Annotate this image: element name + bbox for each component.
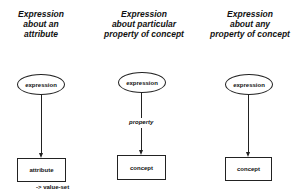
expression-node-2: expression bbox=[118, 72, 166, 93]
node-label: concept bbox=[130, 165, 153, 171]
edge-2a bbox=[141, 93, 142, 118]
title-line: Expression bbox=[11, 9, 71, 19]
edge-1 bbox=[41, 95, 42, 153]
node-label: concept bbox=[237, 166, 260, 172]
node-label: expression bbox=[233, 82, 265, 88]
title-any-property: Expression about any property of concept bbox=[210, 9, 290, 39]
value-set-note: -> value-set bbox=[36, 184, 69, 190]
expression-node-1: expression bbox=[17, 74, 65, 95]
title-attribute: Expression about an attribute bbox=[11, 9, 71, 39]
title-line: about particular bbox=[104, 19, 184, 29]
title-line: Expression bbox=[210, 9, 290, 19]
title-line: property of concept bbox=[104, 29, 184, 39]
edge-3 bbox=[248, 95, 249, 152]
title-line: about an bbox=[11, 19, 71, 29]
attribute-node: attribute bbox=[17, 158, 66, 182]
concept-node-3: concept bbox=[225, 157, 272, 181]
node-label: attribute bbox=[30, 167, 54, 173]
title-line: attribute bbox=[11, 29, 71, 39]
node-label: expression bbox=[25, 82, 57, 88]
expression-node-3: expression bbox=[225, 74, 273, 95]
title-line: property of concept bbox=[210, 29, 290, 39]
edge-2b bbox=[141, 128, 142, 150]
concept-node-2: concept bbox=[117, 155, 166, 180]
title-line: Expression bbox=[104, 9, 184, 19]
property-edge-label: property bbox=[129, 119, 153, 125]
title-line: about any bbox=[210, 19, 290, 29]
node-label: expression bbox=[126, 80, 158, 86]
title-particular-property: Expression about particular property of … bbox=[104, 9, 184, 39]
